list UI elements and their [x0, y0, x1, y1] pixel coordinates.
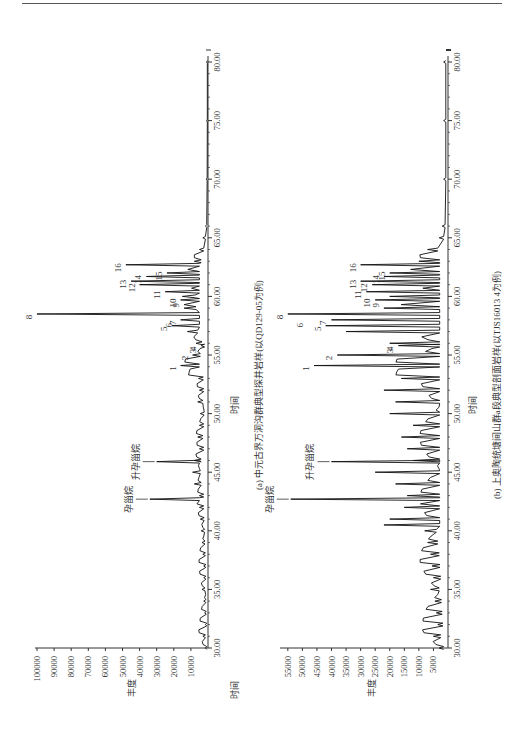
time-tick-label: 65.00: [452, 228, 462, 247]
peak-label: 4: [188, 346, 198, 351]
peak-label: 9: [371, 303, 381, 308]
peak-label: 8: [275, 314, 285, 319]
abundance-tick-label: 70000: [83, 656, 93, 677]
time-tick-label: 35.00: [212, 580, 222, 599]
abundance-tick-label: 40000: [135, 656, 145, 677]
abundance-tick-label: 55000: [283, 656, 293, 677]
peak-label: 1: [168, 366, 178, 371]
abundance-tick-label: 90000: [49, 656, 59, 677]
time-tick-label: 65.00: [212, 228, 222, 247]
peak-label: 8: [24, 314, 34, 319]
chromatogram-figure: 30.0035.0040.0045.0050.0055.0060.0065.00…: [0, 0, 513, 730]
peak-label: 15: [154, 271, 164, 281]
peak-label: 14: [133, 274, 143, 284]
time-tick-label: 50.00: [212, 404, 222, 423]
chart-caption: (a) 中元古界万洞沟群典型探井岩样(以QD129-05为例): [253, 280, 264, 490]
peak-label: 13: [348, 279, 358, 289]
abundance-tick-label: 80000: [66, 656, 76, 677]
abundance-tick-label: 20000: [169, 656, 179, 677]
compound-label: 孕甾烷: [264, 486, 275, 513]
time-tick-label: 50.00: [452, 404, 462, 423]
compound-label: 孕甾烷: [123, 486, 134, 513]
abundance-tick-label: 45000: [312, 656, 322, 677]
time-tick-label: 55.00: [452, 345, 462, 364]
chart-caption: (b) 上奥陶统塘间山群a段典型剖面岩样(以TJS16013 4为例): [491, 271, 502, 499]
time-tick-label: 30.00: [212, 638, 222, 657]
chromatogram-trace: [288, 61, 446, 650]
peak-label: 15: [377, 271, 387, 281]
peak-label: 13: [118, 279, 128, 289]
compound-label: 升孕甾烷: [130, 444, 141, 480]
peak-label: 6: [295, 322, 305, 327]
time-tick-label: 80.00: [452, 52, 462, 71]
abundance-tick-label: 60000: [100, 656, 110, 677]
time-tick-label: 75.00: [212, 111, 222, 130]
peak-label: 7: [168, 320, 178, 325]
time-tick-label: 60.00: [452, 287, 462, 306]
peak-label: 10: [168, 298, 178, 308]
abundance-tick-label: 30000: [152, 656, 162, 677]
abundance-tick-label: 20000: [385, 656, 395, 677]
x-axis-corner-title: 时间: [229, 681, 240, 699]
peak-label: 7: [319, 320, 329, 325]
abundance-tick-label: 50000: [297, 656, 307, 677]
chart-a: 30.0035.0040.0045.0050.0055.0060.0065.00…: [24, 50, 264, 699]
peak-label: 2: [180, 356, 190, 361]
peak-label: 16: [113, 263, 123, 273]
y-axis-title: 丰度: [126, 679, 137, 697]
time-tick-label: 60.00: [212, 287, 222, 306]
compound-label: 升孕甾烷: [305, 444, 316, 480]
peak-label: 16: [348, 263, 358, 273]
peak-label: 12: [359, 283, 369, 292]
peak-label: 4: [385, 346, 395, 351]
x-axis-title: 时间: [229, 396, 240, 414]
peak-label: 5: [313, 326, 323, 331]
abundance-tick-label: 10000: [186, 656, 196, 677]
time-tick-label: 55.00: [212, 345, 222, 364]
abundance-tick-label: 25000: [370, 656, 380, 677]
peak-label: 2: [324, 356, 334, 361]
time-tick-label: 70.00: [452, 170, 462, 189]
time-tick-label: 35.00: [452, 580, 462, 599]
abundance-tick-label: 15000: [399, 656, 409, 677]
abundance-tick-label: 100000: [32, 656, 42, 682]
abundance-tick-label: 10000: [414, 656, 424, 677]
peak-label: 1: [301, 366, 311, 371]
abundance-tick-label: 40000: [327, 656, 337, 677]
peak-label: 10: [362, 298, 372, 308]
y-axis-title: 丰度: [366, 679, 377, 697]
peak-label: 11: [152, 290, 162, 299]
time-tick-label: 30.00: [452, 638, 462, 657]
time-tick-label: 80.00: [212, 52, 222, 71]
time-tick-label: 70.00: [212, 170, 222, 189]
time-tick-label: 40.00: [452, 521, 462, 540]
abundance-tick-label: 5000: [428, 656, 438, 673]
abundance-tick-label: 50000: [118, 656, 128, 677]
x-axis-title: 时间: [467, 396, 478, 414]
chart-b: 30.0035.0040.0045.0050.0055.0060.0065.00…: [264, 50, 502, 697]
time-tick-label: 45.00: [212, 463, 222, 482]
time-tick-label: 75.00: [452, 111, 462, 130]
time-tick-label: 45.00: [452, 463, 462, 482]
chromatogram-trace: [37, 61, 207, 650]
time-tick-label: 40.00: [212, 521, 222, 540]
abundance-tick-label: 35000: [341, 656, 351, 677]
abundance-tick-label: 30000: [356, 656, 366, 677]
